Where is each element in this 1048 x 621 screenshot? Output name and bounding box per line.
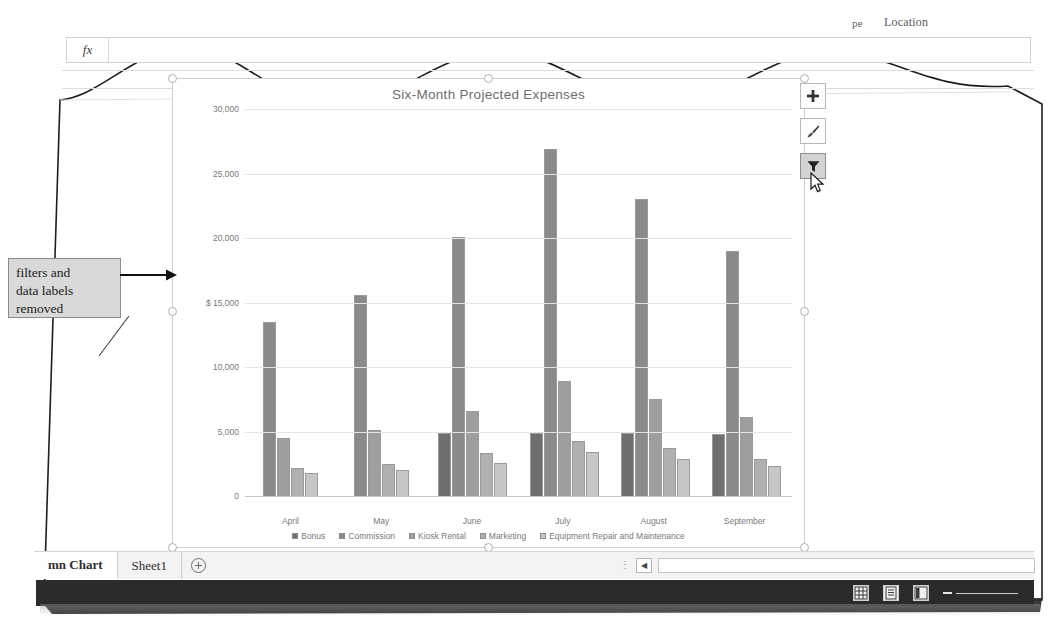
bar[interactable] xyxy=(368,430,381,496)
legend-swatch xyxy=(409,533,415,539)
plot-area xyxy=(245,109,792,514)
sheet-tab-column-chart[interactable]: mn Chart xyxy=(34,552,118,579)
formula-input[interactable] xyxy=(109,38,1030,62)
grid-rule-1 xyxy=(62,70,1034,71)
split-handle-icon[interactable]: ⋮ xyxy=(620,562,630,568)
paintbrush-icon xyxy=(806,124,821,139)
chart-object[interactable]: Six-Month Projected Expenses 05,00010,00… xyxy=(172,78,805,548)
bar[interactable] xyxy=(530,433,543,496)
bar[interactable] xyxy=(277,438,290,496)
header-text-location: Location xyxy=(884,15,928,30)
selection-handle-mr[interactable] xyxy=(800,307,809,316)
bar[interactable] xyxy=(635,199,648,496)
callout-line-1: filters and xyxy=(16,264,113,282)
bar[interactable] xyxy=(572,441,585,496)
horizontal-scroll-zone: ⋮ ◀ xyxy=(620,553,1035,577)
plus-circle-icon xyxy=(191,558,206,573)
normal-view-button[interactable] xyxy=(853,585,869,601)
x-axis-tick-label: June xyxy=(427,516,518,526)
header-text-type-fragment: pe xyxy=(852,17,863,29)
x-axis-labels: AprilMayJuneJulyAugustSeptember xyxy=(245,516,790,526)
selection-handle-tr[interactable] xyxy=(800,74,809,83)
status-bar xyxy=(36,580,1034,606)
legend-swatch xyxy=(540,533,546,539)
legend-item[interactable]: Commission xyxy=(339,531,395,541)
legend-swatch xyxy=(339,533,345,539)
x-axis-tick-label: September xyxy=(699,516,790,526)
selection-handle-tl[interactable] xyxy=(168,74,177,83)
annotation-callout: filters and data labels removed xyxy=(8,258,121,318)
legend-item[interactable]: Bonus xyxy=(292,531,325,541)
bar[interactable] xyxy=(263,322,276,496)
bar[interactable] xyxy=(712,434,725,496)
bar[interactable] xyxy=(305,473,318,496)
scroll-left-button[interactable]: ◀ xyxy=(636,558,652,573)
gridline xyxy=(245,367,792,368)
horizontal-scrollbar[interactable] xyxy=(658,558,1035,573)
y-axis-tick-label: $ 15,000 xyxy=(206,298,239,308)
legend-label: Equipment Repair and Maintenance xyxy=(549,531,685,541)
chart-legend[interactable]: BonusCommissionKiosk RentalMarketingEqui… xyxy=(173,531,804,541)
bar[interactable] xyxy=(494,463,507,496)
bar[interactable] xyxy=(466,411,479,496)
bar[interactable] xyxy=(740,417,753,496)
y-axis: 05,00010,000$ 15,00020,00025,00030,000 xyxy=(173,109,245,514)
formula-bar[interactable]: fx xyxy=(66,37,1031,63)
legend-label: Commission xyxy=(348,531,395,541)
legend-item[interactable]: Equipment Repair and Maintenance xyxy=(540,531,685,541)
callout-line-3: removed xyxy=(16,300,113,318)
zoom-track[interactable] xyxy=(956,593,1018,594)
sheet-tab-sheet1[interactable]: Sheet1 xyxy=(118,552,182,579)
bar[interactable] xyxy=(291,468,304,496)
chart-title[interactable]: Six-Month Projected Expenses xyxy=(173,87,804,102)
page-layout-view-button[interactable] xyxy=(883,585,899,601)
page-layout-icon xyxy=(884,586,898,600)
chart-elements-button[interactable] xyxy=(800,83,826,109)
legend-swatch xyxy=(292,533,298,539)
legend-swatch xyxy=(480,533,486,539)
y-axis-tick-label: 30,000 xyxy=(213,104,239,114)
bar[interactable] xyxy=(754,459,767,496)
bar[interactable] xyxy=(768,466,781,496)
legend-item[interactable]: Kiosk Rental xyxy=(409,531,466,541)
screenshot-root: pe Location fx Six-Month Projected Expen… xyxy=(0,0,1048,621)
zoom-slider[interactable] xyxy=(943,592,1018,594)
plus-icon xyxy=(806,89,820,103)
bar[interactable] xyxy=(544,149,557,496)
gridline xyxy=(245,432,792,433)
bar[interactable] xyxy=(586,452,599,497)
y-axis-tick-label: 0 xyxy=(234,491,239,501)
plot-wrapper: 05,00010,000$ 15,00020,00025,00030,000 xyxy=(173,109,806,514)
y-axis-tick-label: 5,000 xyxy=(218,427,239,437)
mouse-cursor xyxy=(810,172,826,194)
x-axis-tick-label: July xyxy=(517,516,608,526)
x-axis-tick-label: August xyxy=(608,516,699,526)
add-sheet-button[interactable] xyxy=(182,552,216,579)
legend-item[interactable]: Marketing xyxy=(480,531,526,541)
selection-handle-tc[interactable] xyxy=(484,74,493,83)
page-break-preview-button[interactable] xyxy=(913,585,929,601)
bar[interactable] xyxy=(438,433,451,496)
page-break-icon xyxy=(914,586,928,600)
bar[interactable] xyxy=(396,470,409,496)
y-axis-tick-label: 25,000 xyxy=(213,169,239,179)
bar[interactable] xyxy=(621,433,634,496)
bar[interactable] xyxy=(382,464,395,496)
chart-styles-button[interactable] xyxy=(800,118,826,144)
bar[interactable] xyxy=(480,453,493,496)
zoom-out-button[interactable] xyxy=(943,592,952,594)
bar[interactable] xyxy=(663,448,676,496)
bar[interactable] xyxy=(354,295,367,496)
axis-baseline xyxy=(245,496,792,497)
bar[interactable] xyxy=(726,251,739,496)
bar[interactable] xyxy=(558,381,571,496)
selection-handle-ml[interactable] xyxy=(168,307,177,316)
y-axis-tick-label: 20,000 xyxy=(213,233,239,243)
bar[interactable] xyxy=(649,399,662,496)
gridline xyxy=(245,238,792,239)
legend-label: Bonus xyxy=(301,531,325,541)
callout-arrow-icon xyxy=(120,268,178,282)
bar[interactable] xyxy=(677,459,690,496)
legend-label: Marketing xyxy=(489,531,526,541)
y-axis-tick-label: 10,000 xyxy=(213,362,239,372)
